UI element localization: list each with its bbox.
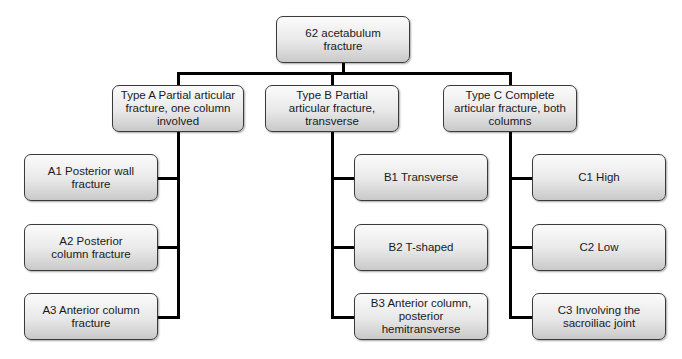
a1-branch-connector [157,177,180,180]
a2-branch-connector [157,246,180,249]
a2-node: A2 Posterior column fracture [24,224,158,271]
type-a-node: Type A Partial articular fracture, one c… [112,85,244,132]
b1-node: B1 Transverse [354,154,488,201]
type-c-spine-connector [509,131,512,319]
b3-label: B3 Anterior column, posterior hemitransv… [369,297,473,336]
top-horizontal-connector [177,72,512,75]
root-node-label: 62 acetabulum fracture [305,27,380,53]
a1-node: A1 Posterior wall fracture [24,154,158,201]
a3-label: A3 Anterior column fracture [41,304,141,330]
type-b-drop-connector [331,72,334,86]
b2-branch-connector [331,246,355,249]
type-a-label: Type A Partial articular fracture, one c… [117,89,239,128]
type-c-drop-connector [509,72,512,86]
b1-branch-connector [331,177,355,180]
type-c-node: Type C Complete articular fracture, both… [443,85,577,132]
a3-node: A3 Anterior column fracture [24,293,158,340]
a1-label: A1 Posterior wall fracture [41,165,141,191]
c2-label: C2 Low [580,241,619,254]
b1-label: B1 Transverse [384,171,458,184]
type-a-drop-connector [177,72,180,86]
a2-label: A2 Posterior column fracture [41,235,141,261]
a3-branch-connector [157,316,180,319]
type-a-spine-connector [177,131,180,319]
c2-branch-connector [509,246,533,249]
c1-branch-connector [509,177,533,180]
root-node: 62 acetabulum fracture [276,16,410,63]
type-c-label: Type C Complete articular fracture, both… [454,89,566,128]
c3-label: C3 Involving the sacroiliac joint [543,304,655,330]
c3-node: C3 Involving the sacroiliac joint [532,293,666,340]
b3-branch-connector [331,316,355,319]
c3-branch-connector [509,316,533,319]
c1-label: C1 High [578,171,620,184]
b2-label: B2 T-shaped [388,241,453,254]
type-b-spine-connector [331,131,334,319]
c2-node: C2 Low [532,224,666,271]
type-b-node: Type B Partial articular fracture, trans… [265,85,399,132]
b2-node: B2 T-shaped [354,224,488,271]
b3-node: B3 Anterior column, posterior hemitransv… [354,293,488,340]
type-b-label: Type B Partial articular fracture, trans… [276,89,388,128]
c1-node: C1 High [532,154,666,201]
